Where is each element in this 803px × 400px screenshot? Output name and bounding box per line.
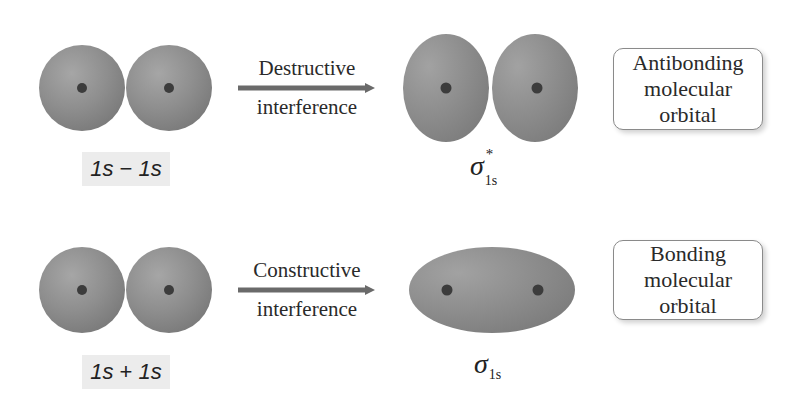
orbital-right-label: 1s bbox=[139, 156, 162, 181]
star-superscript: * bbox=[486, 146, 494, 163]
sub-sup-stack: *1s bbox=[484, 150, 497, 185]
nucleus-icon bbox=[77, 285, 87, 295]
type-line1: Antibonding bbox=[614, 50, 762, 76]
type-line3: orbital bbox=[614, 293, 762, 319]
atomic-orbital-1s-right-top bbox=[126, 45, 212, 131]
bonding-type-box: Bonding molecular orbital bbox=[613, 240, 763, 320]
nucleus-icon bbox=[441, 83, 452, 94]
nucleus-icon bbox=[164, 285, 174, 295]
atomic-orbital-1s-left-top bbox=[39, 45, 125, 131]
type-line3: orbital bbox=[614, 102, 762, 128]
nucleus-icon bbox=[77, 83, 87, 93]
combination-label-bottom: 1s + 1s bbox=[82, 355, 170, 389]
orbital-left-label: 1s bbox=[90, 156, 113, 181]
type-line2: molecular bbox=[614, 267, 762, 293]
nucleus-icon bbox=[442, 285, 453, 296]
sigma-symbol: σ bbox=[474, 348, 488, 379]
sigma-symbol: σ bbox=[470, 150, 484, 181]
orbital-right-label: 1s bbox=[139, 359, 162, 384]
antibonding-type-box: Antibonding molecular orbital bbox=[613, 48, 763, 130]
arrow-label-top-line2: interference bbox=[232, 95, 382, 120]
atomic-orbital-1s-left-bottom bbox=[39, 247, 125, 333]
antibonding-orbital-shape bbox=[403, 34, 578, 142]
nucleus-icon bbox=[533, 285, 544, 296]
orbital-left-label: 1s bbox=[90, 359, 113, 384]
bonding-symbol: σ1s bbox=[474, 348, 501, 383]
arrow-label-bottom-line1: Constructive bbox=[232, 258, 382, 283]
operator-label: + bbox=[120, 359, 133, 384]
subscript-1s: 1s bbox=[485, 173, 497, 188]
type-line2: molecular bbox=[614, 76, 762, 102]
bonding-orbital-shape bbox=[409, 247, 575, 333]
subscript-1s: 1s bbox=[489, 367, 501, 382]
nucleus-icon bbox=[164, 83, 174, 93]
arrow-label-top-line1: Destructive bbox=[232, 56, 382, 81]
atomic-orbital-1s-right-bottom bbox=[126, 247, 212, 333]
type-line1: Bonding bbox=[614, 241, 762, 267]
nucleus-icon bbox=[532, 83, 543, 94]
combination-label-top: 1s − 1s bbox=[82, 152, 170, 186]
arrow-label-bottom-line2: interference bbox=[232, 297, 382, 322]
antibonding-symbol: σ*1s bbox=[470, 150, 497, 185]
operator-label: − bbox=[120, 156, 133, 181]
